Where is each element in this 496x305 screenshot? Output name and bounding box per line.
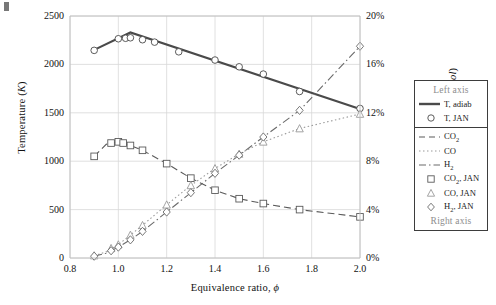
data-point-diamond bbox=[260, 133, 267, 141]
left-axis-tick: 1000 bbox=[18, 155, 64, 166]
dashdot-line bbox=[418, 159, 444, 171]
data-point-square bbox=[91, 153, 98, 160]
data-point-square bbox=[212, 187, 219, 194]
circle-marker bbox=[418, 112, 444, 124]
x-axis-symbol: ϕ bbox=[274, 282, 280, 293]
data-point-diamond bbox=[163, 208, 170, 216]
data-point-square bbox=[163, 160, 170, 167]
data-point-circle bbox=[151, 39, 158, 46]
x-axis-title-text: Equivalence ratio, bbox=[191, 282, 274, 293]
dotted-line bbox=[418, 145, 444, 157]
square-marker bbox=[418, 173, 444, 185]
data-point-square bbox=[188, 175, 195, 182]
right-axis-tick: 16% bbox=[366, 58, 412, 69]
data-point-circle bbox=[260, 71, 267, 78]
series-line-Tadiab bbox=[94, 33, 360, 109]
legend-item-H2JAN[interactable]: H2, JAN bbox=[415, 200, 487, 214]
right-axis-tick: 0% bbox=[366, 252, 412, 263]
data-point-diamond bbox=[187, 189, 194, 197]
data-point-triangle bbox=[296, 125, 303, 132]
data-point-square bbox=[260, 200, 267, 207]
legend-item-label: CO2 bbox=[444, 131, 459, 143]
solid-line bbox=[418, 98, 444, 110]
data-point-triangle bbox=[163, 201, 170, 208]
legend-item-COJAN[interactable]: CO, JAN bbox=[415, 186, 487, 200]
x-axis-tick: 1.0 bbox=[98, 263, 138, 274]
legend-divider bbox=[415, 127, 487, 128]
data-point-triangle bbox=[187, 182, 194, 189]
legend-item-label: T, adiab bbox=[444, 99, 472, 109]
x-axis-tick: 1.4 bbox=[195, 263, 235, 274]
x-axis-title: Equivalence ratio, ϕ bbox=[120, 282, 350, 293]
legend-header: Left axis bbox=[415, 83, 487, 97]
data-point-square bbox=[120, 140, 127, 147]
legend-item-TJAN[interactable]: T, JAN bbox=[415, 111, 487, 125]
legend-item-Tadiab[interactable]: T, adiab bbox=[415, 97, 487, 111]
left-axis-tick: 1500 bbox=[18, 107, 64, 118]
dashed-line bbox=[418, 131, 444, 143]
triangle-marker bbox=[418, 187, 444, 199]
data-point-circle bbox=[115, 35, 122, 42]
chart-legend: Left axis T, adiabT, JAN CO2COH2CO2, JAN… bbox=[414, 80, 488, 231]
legend-item-label: T, JAN bbox=[444, 113, 469, 123]
data-point-circle bbox=[91, 47, 98, 54]
series-line-H2 bbox=[94, 46, 360, 256]
legend-item-label: CO2, JAN bbox=[444, 173, 479, 185]
legend-group-left-axis: T, adiabT, JAN bbox=[415, 97, 487, 125]
data-point-circle bbox=[236, 64, 243, 71]
series-line-CO bbox=[94, 114, 360, 256]
right-axis-tick: 12% bbox=[366, 107, 412, 118]
right-axis-tick: 20% bbox=[366, 10, 412, 21]
data-point-circle bbox=[175, 49, 182, 56]
legend-item-label: H2 bbox=[444, 159, 453, 171]
diamond-marker bbox=[418, 201, 444, 213]
legend-item-label: H2, JAN bbox=[444, 201, 473, 213]
x-axis-tick: 1.6 bbox=[243, 263, 283, 274]
chart-figure: Temperature (K) Mole fraction (%mol) Equ… bbox=[0, 0, 496, 305]
legend-item-CO[interactable]: CO bbox=[415, 144, 487, 158]
legend-footer: Right axis bbox=[415, 214, 487, 228]
data-point-circle bbox=[139, 36, 146, 43]
legend-item-CO2[interactable]: CO2 bbox=[415, 130, 487, 144]
series-line-CO2 bbox=[94, 142, 360, 217]
right-axis-tick: 4% bbox=[366, 204, 412, 215]
left-axis-tick: 0 bbox=[18, 252, 64, 263]
left-axis-tick: 500 bbox=[18, 204, 64, 215]
x-axis-tick: 2.0 bbox=[340, 263, 380, 274]
x-axis-tick: 0.8 bbox=[50, 263, 90, 274]
legend-group-right-axis: CO2COH2CO2, JANCO, JANH2, JAN bbox=[415, 130, 487, 214]
data-point-circle bbox=[127, 34, 134, 41]
data-point-square bbox=[296, 206, 303, 213]
data-point-diamond bbox=[115, 243, 122, 251]
x-axis-tick: 1.8 bbox=[292, 263, 332, 274]
right-axis-tick: 8% bbox=[366, 155, 412, 166]
legend-item-label: CO, JAN bbox=[444, 188, 476, 198]
legend-item-H2[interactable]: H2 bbox=[415, 158, 487, 172]
left-axis-unit: K bbox=[16, 85, 27, 92]
legend-item-CO2JAN[interactable]: CO2, JAN bbox=[415, 172, 487, 186]
data-point-circle bbox=[212, 57, 219, 64]
x-axis-tick: 1.2 bbox=[147, 263, 187, 274]
legend-item-label: CO bbox=[444, 146, 456, 156]
left-axis-tick: 2500 bbox=[18, 10, 64, 21]
data-point-square bbox=[108, 140, 115, 147]
data-point-square bbox=[236, 195, 243, 202]
data-point-square bbox=[127, 142, 134, 149]
data-point-square bbox=[139, 147, 146, 154]
data-point-diamond bbox=[296, 106, 303, 114]
left-axis-tick: 2000 bbox=[18, 58, 64, 69]
data-point-circle bbox=[296, 88, 303, 95]
